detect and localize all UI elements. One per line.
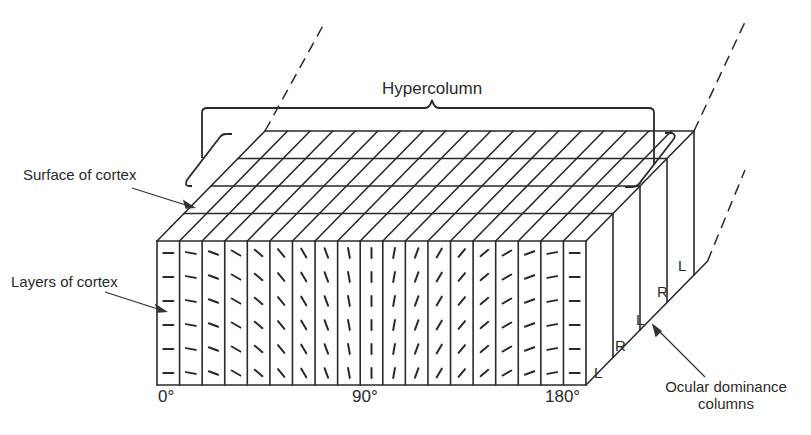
orientation-tick xyxy=(393,248,395,258)
eye-label-5: L xyxy=(678,257,686,274)
eye-label-2: R xyxy=(615,337,626,354)
orientation-tick xyxy=(481,298,489,304)
orientation-tick xyxy=(547,324,557,326)
orientation-tick xyxy=(459,345,465,353)
orientation-tick xyxy=(437,297,442,306)
orientation-tick xyxy=(232,251,241,256)
ocular-arrow xyxy=(653,325,705,377)
orientation-tick xyxy=(547,348,557,350)
orientation-tick xyxy=(209,371,218,374)
axis-label-90: 90° xyxy=(352,387,378,407)
orientation-tick xyxy=(415,296,418,305)
layers-of-cortex-label: Layers of cortex xyxy=(11,273,118,290)
orientation-tick xyxy=(415,344,418,353)
orientation-tick xyxy=(437,249,442,258)
orientation-tick xyxy=(547,300,557,302)
ocular-label-line1: Ocular dominance xyxy=(651,378,801,395)
orientation-tick xyxy=(481,274,489,280)
orientation-ticks xyxy=(163,248,579,378)
orientation-tick xyxy=(325,296,328,305)
orientation-tick xyxy=(503,371,512,376)
orientation-tick xyxy=(481,370,489,376)
orientation-tick xyxy=(547,252,557,254)
eye-label-4: R xyxy=(657,283,668,300)
hypercolumn-diagram xyxy=(0,0,811,435)
orientation-tick xyxy=(278,249,284,257)
orientation-tick xyxy=(348,368,350,378)
orientation-tick xyxy=(459,369,465,377)
orientation-tick xyxy=(278,369,284,377)
eye-label-1: L xyxy=(594,364,602,381)
orientation-tick xyxy=(255,346,263,352)
orientation-tick xyxy=(393,344,395,354)
orientation-tick xyxy=(209,251,218,254)
orientation-tick xyxy=(232,323,241,328)
orientation-tick xyxy=(547,372,557,374)
hypercolumn-brace xyxy=(202,100,654,165)
surface-of-cortex-label: Surface of cortex xyxy=(23,166,136,183)
orientation-tick xyxy=(186,324,196,326)
orientation-tick xyxy=(459,321,465,329)
orientation-tick xyxy=(525,371,534,374)
orientation-tick xyxy=(525,299,534,302)
orientation-tick xyxy=(325,272,328,281)
orientation-tick xyxy=(209,347,218,350)
orientation-tick xyxy=(232,299,241,304)
orientation-tick xyxy=(503,251,512,256)
orientation-tick xyxy=(232,347,241,352)
orientation-tick xyxy=(278,321,284,329)
orientation-tick xyxy=(255,298,263,304)
surface-arrow xyxy=(132,188,194,208)
orientation-tick xyxy=(437,345,442,354)
orientation-tick xyxy=(503,299,512,304)
orientation-tick xyxy=(393,320,395,330)
orientation-tick xyxy=(437,369,442,378)
orientation-tick xyxy=(301,297,306,306)
orientation-tick xyxy=(186,348,196,350)
orientation-tick xyxy=(415,320,418,329)
orientation-tick xyxy=(301,321,306,330)
orientation-tick xyxy=(525,251,534,254)
orientation-tick xyxy=(459,249,465,257)
orientation-tick xyxy=(325,320,328,329)
orientation-tick xyxy=(348,344,350,354)
orientation-tick xyxy=(437,273,442,282)
orientation-tick xyxy=(209,323,218,326)
orientation-tick xyxy=(209,275,218,278)
axis-label-180: 180° xyxy=(545,387,580,407)
orientation-tick xyxy=(186,276,196,278)
orientation-tick xyxy=(393,272,395,282)
orientation-tick xyxy=(186,372,196,374)
orientation-tick xyxy=(186,300,196,302)
orientation-tick xyxy=(415,248,418,257)
orientation-tick xyxy=(348,272,350,282)
orientation-tick xyxy=(255,322,263,328)
orientation-tick xyxy=(278,345,284,353)
axis-label-0: 0° xyxy=(158,387,174,407)
orientation-tick xyxy=(301,369,306,378)
orientation-tick xyxy=(437,321,442,330)
orientation-tick xyxy=(459,297,465,305)
orientation-tick xyxy=(232,371,241,376)
orientation-tick xyxy=(325,368,328,377)
orientation-tick xyxy=(209,299,218,302)
orientation-tick xyxy=(393,296,395,306)
ocular-label-line2: columns xyxy=(651,395,801,412)
orientation-tick xyxy=(459,273,465,281)
orientation-tick xyxy=(525,323,534,326)
orientation-tick xyxy=(525,275,534,278)
orientation-tick xyxy=(348,248,350,258)
orientation-tick xyxy=(503,275,512,280)
orientation-tick xyxy=(415,272,418,281)
orientation-tick xyxy=(348,320,350,330)
orientation-tick xyxy=(278,273,284,281)
orientation-tick xyxy=(481,322,489,328)
extension-dashed-lines xyxy=(265,22,745,261)
orientation-tick xyxy=(525,347,534,350)
orientation-tick xyxy=(503,347,512,352)
left-corner-bracket xyxy=(186,134,232,186)
orientation-tick xyxy=(503,323,512,328)
orientation-tick xyxy=(325,248,328,257)
orientation-tick xyxy=(255,250,263,256)
orientation-tick xyxy=(415,368,418,377)
